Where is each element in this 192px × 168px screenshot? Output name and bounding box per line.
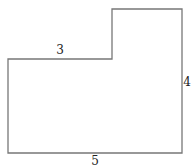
label-right-edge: 4 bbox=[183, 75, 191, 89]
label-bottom-edge: 5 bbox=[91, 154, 99, 168]
l-shape-diagram: 3 4 5 bbox=[0, 0, 192, 168]
l-shape-outline bbox=[8, 9, 182, 153]
label-top-left-edge: 3 bbox=[56, 43, 64, 57]
